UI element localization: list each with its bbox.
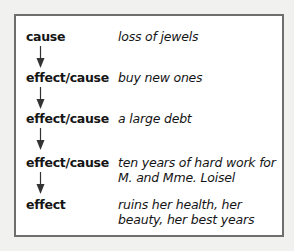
cause-effect-chain-box: cause loss of jewels effect/cause buy ne…: [14, 14, 284, 237]
down-arrow-icon: [36, 172, 45, 194]
chain-term: effect/cause: [26, 111, 109, 126]
down-arrow-icon: [36, 46, 45, 68]
chain-term: effect/cause: [26, 155, 109, 170]
chain-term: effect: [26, 197, 65, 212]
chain-description: buy new ones: [118, 70, 278, 85]
chain-description: ten years of hard work for M. and Mme. L…: [118, 155, 278, 185]
chain-term: effect/cause: [26, 70, 109, 85]
chain-term: cause: [26, 29, 65, 44]
chain-description: ruins her health, her beauty, her best y…: [118, 197, 278, 227]
cropped-header-text: [0, 0, 294, 3]
chain-description: a large debt: [118, 111, 278, 126]
down-arrow-icon: [36, 87, 45, 109]
chain-description: loss of jewels: [118, 29, 278, 44]
down-arrow-icon: [36, 128, 45, 150]
